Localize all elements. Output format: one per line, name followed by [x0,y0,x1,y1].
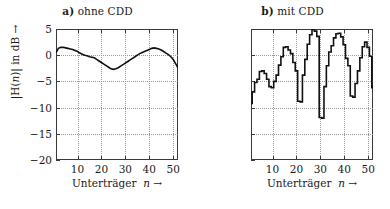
x-tick-label: 20 [290,163,303,175]
y-axis-label-var: n [9,76,21,83]
plot-area-mit-cdd: Unterträger n → 1020304050 [251,29,373,160]
y-axis-label: |H(n)| in dB → [9,0,21,132]
y-tick-label: −5 [37,75,52,87]
panel-mit-cdd: b) mit CDD Unterträger n → 1020304050 [195,0,390,209]
y-tick-label: 0 [45,49,52,61]
x-tick-label: 20 [95,163,108,175]
panel-b-title: b) mit CDD [195,4,390,18]
panel-a-title: a) ohne CDD [0,4,195,18]
x-tick-label: 40 [143,163,156,175]
data-series-mit-cdd [251,29,373,160]
panel-b-title-text: mit CDD [277,5,323,17]
x-tick-label: 40 [338,163,351,175]
y-tick-mark [251,160,255,161]
x-tick-label: 50 [167,163,180,175]
panel-ohne-cdd: a) ohne CDD |H(n)| in dB → Unterträger n… [0,0,195,209]
x-axis-label-b-text: Unterträger [267,177,332,189]
x-axis-label-a-var: n [143,177,150,189]
y-axis-label-suffix: )| in dB → [9,25,21,76]
x-tick-label: 50 [362,163,375,175]
x-tick-label: 10 [266,163,279,175]
y-tick-label: −20 [30,154,52,166]
curve-path [56,47,178,69]
data-series-ohne-cdd [56,29,178,160]
x-tick-label: 10 [71,163,84,175]
plot-area-ohne-cdd: Unterträger n → 50−5−10−15−201020304050 [56,29,178,160]
x-axis-label-b-var: n [338,177,345,189]
x-axis-label-a: Unterträger n → [72,177,162,189]
y-tick-label: 5 [45,23,52,35]
figure-root: a) ohne CDD |H(n)| in dB → Unterträger n… [0,0,390,209]
panel-b-title-lead: b) [261,5,274,17]
y-tick-mark [56,160,60,161]
y-axis-label-prefix: |H( [9,83,21,100]
x-axis-label-a-text: Unterträger [72,177,137,189]
curve-path [250,30,374,119]
y-tick-label: −10 [30,102,52,114]
x-tick-label: 30 [119,163,132,175]
x-tick-label: 30 [314,163,327,175]
panel-a-title-text: ohne CDD [78,5,133,17]
x-axis-label-b: Unterträger n → [267,177,357,189]
x-axis-label-b-arrow: → [348,177,357,189]
panel-a-title-lead: a) [62,5,74,17]
x-axis-label-a-arrow: → [153,177,162,189]
y-tick-label: −15 [30,128,52,140]
